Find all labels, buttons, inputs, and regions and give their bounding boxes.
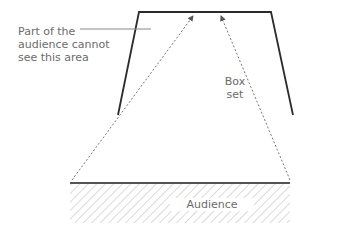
box-set-walls [118, 12, 293, 115]
box-set-label-line2: set [215, 88, 255, 101]
box-set-label: Box set [215, 75, 255, 101]
obstructed-area-note: Part of the audience cannot see this are… [18, 25, 128, 64]
audience-label: Audience [170, 198, 254, 211]
box-set-label-line1: Box [215, 75, 255, 88]
